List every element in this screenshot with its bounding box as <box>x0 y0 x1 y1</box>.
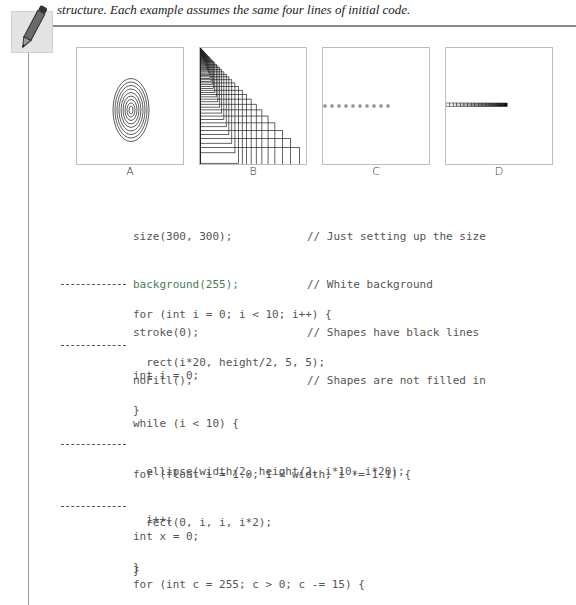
code-line: for (int i = 0; i < 10; i++) { <box>133 307 332 323</box>
exercise-code-4: int x = 0; for (int c = 255; c > 0; c -=… <box>133 497 365 605</box>
code-line: for (float i = 1.0; i < width; i *= 1.1)… <box>133 467 411 483</box>
output-panel-c <box>322 47 430 165</box>
pencil-icon <box>12 2 54 54</box>
gradient-squares-drawing <box>446 48 553 165</box>
output-panel-b <box>199 47 307 165</box>
panel-label-a: A <box>76 165 184 178</box>
panel-label-d: D <box>445 165 553 178</box>
code-line: int i = 0; <box>133 368 405 384</box>
answer-blank-1[interactable] <box>61 284 126 286</box>
intro-line: structure. Each example assumes the same… <box>57 2 410 18</box>
code-line: size(300, 300); <box>133 230 232 243</box>
code-line: int x = 0; <box>133 529 365 545</box>
code-line: for (int c = 255; c > 0; c -= 15) { <box>133 577 365 593</box>
exercise-badge <box>11 11 53 53</box>
rects-drawing <box>200 48 307 165</box>
left-margin-rule <box>28 53 29 605</box>
panel-label-b: B <box>199 165 307 178</box>
squares-drawing <box>323 48 430 165</box>
code-line: while (i < 10) { <box>133 416 405 432</box>
output-panel-d <box>445 47 553 165</box>
panel-label-c: C <box>322 165 430 178</box>
output-panel-a <box>76 47 184 165</box>
header-divider <box>53 25 576 27</box>
answer-blank-2[interactable] <box>61 345 126 347</box>
answer-blank-4[interactable] <box>61 506 126 508</box>
code-comment: // Just setting up the size <box>307 229 486 245</box>
answer-blank-3[interactable] <box>61 444 126 446</box>
ellipses-drawing <box>77 48 184 165</box>
